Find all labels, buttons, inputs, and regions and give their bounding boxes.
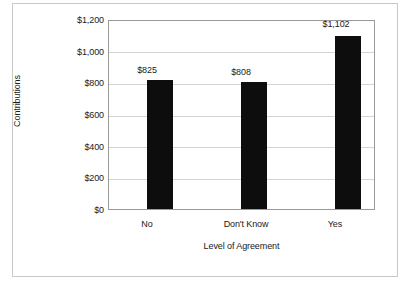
- y-tick-label: $0: [94, 205, 104, 215]
- plot-area: [108, 20, 375, 210]
- x-tick-label-dont-know: Don't Know: [206, 219, 286, 229]
- bar-value-label-no: $825: [117, 65, 177, 75]
- y-tick-label: $600: [84, 110, 104, 120]
- y-axis-tick-labels: $1,200 $1,000 $800 $600 $400 $200 $0: [40, 0, 104, 289]
- y-tick-label: $200: [84, 173, 104, 183]
- bar-yes[interactable]: [335, 36, 361, 209]
- chart-figure: Contributions $1,200 $1,000 $800 $600 $4…: [0, 0, 411, 289]
- y-tick-label: $1,000: [77, 47, 104, 57]
- x-tick-label-no: No: [117, 219, 177, 229]
- y-tick-label: $800: [84, 78, 104, 88]
- y-tick-label: $1,200: [77, 15, 104, 25]
- bar-no[interactable]: [147, 80, 173, 209]
- y-tick-label: $400: [84, 142, 104, 152]
- bar-value-label-dont-know: $808: [211, 67, 271, 77]
- bar-value-label-yes: $1,102: [303, 19, 369, 29]
- x-axis-title: Level of Agreement: [108, 241, 375, 251]
- x-tick-label-yes: Yes: [305, 219, 365, 229]
- y-axis-title: Contributions: [12, 56, 22, 146]
- bar-dont-know[interactable]: [241, 82, 267, 209]
